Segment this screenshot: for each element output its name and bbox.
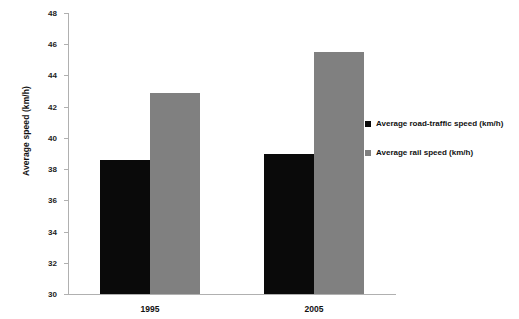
y-axis-tick-label: 48 [48,9,57,18]
y-axis-tick: 46 [64,44,68,45]
y-axis-tick: 34 [64,232,68,233]
y-axis-tick-label: 40 [48,133,57,142]
bar-1995-series-0 [100,160,150,294]
y-axis-tick-label: 38 [48,165,57,174]
y-axis-tick: 44 [64,75,68,76]
y-axis-tick-label: 42 [48,102,57,111]
y-axis-tick: 48 [64,13,68,14]
legend-label: Average rail speed (km/h) [376,149,473,157]
legend-label: Average road-traffic speed (km/h) [376,120,503,128]
legend-swatch-icon [365,150,371,156]
y-axis-title: Average speed (km/h) [21,61,31,201]
legend-entry-1: Average rail speed (km/h) [365,147,519,158]
plot-area: 30323436384042444648 19952005 [68,13,396,294]
y-axis-tick: 40 [64,138,68,139]
bar-1995-series-1 [150,93,200,294]
y-axis-tick-label: 34 [48,227,57,236]
legend-swatch-icon [365,121,371,127]
bar-2005-series-1 [314,52,364,294]
y-axis-tick-label: 32 [48,258,57,267]
y-axis-tick: 30 [64,294,68,295]
y-axis-tick: 42 [64,107,68,108]
legend-entry-0: Average road-traffic speed (km/h) [365,118,519,129]
bar-2005-series-0 [264,154,314,295]
x-axis-line [68,294,396,295]
bar-chart: Average speed (km/h) 3032343638404244464… [0,0,519,319]
y-axis-tick-label: 44 [48,71,57,80]
y-axis-tick-label: 30 [48,290,57,299]
y-axis-tick: 38 [64,169,68,170]
y-axis-tick-label: 46 [48,40,57,49]
y-axis-line [68,13,69,294]
y-axis-tick: 32 [64,263,68,264]
y-axis-tick: 36 [64,200,68,201]
y-axis-tick-label: 36 [48,196,57,205]
x-axis-group-label: 1995 [141,304,160,314]
chart-legend: Average road-traffic speed (km/h)Average… [365,118,519,176]
x-axis-group-label: 2005 [305,304,324,314]
